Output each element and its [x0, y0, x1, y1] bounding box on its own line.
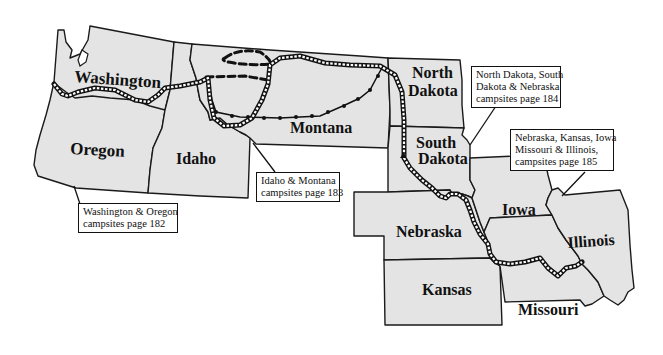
callout-line: campsites page 183 [261, 187, 335, 199]
callout-ne-ks-ia-mo-il[interactable]: Nebraska, Kansas, Iowa Missouri & Illino… [510, 129, 614, 171]
label-montana: Montana [290, 119, 352, 136]
label-south-dakota-1: South [416, 134, 456, 151]
callout-idaho-montana[interactable]: Idaho & Montana campsites page 183 [256, 172, 340, 202]
callout-line: North Dakota, South [476, 69, 556, 81]
label-illinois: Illinois [567, 231, 615, 251]
callout-nd-sd-ne[interactable]: North Dakota, South Dakota & Nebraska ca… [471, 66, 561, 108]
label-oregon: Oregon [70, 139, 126, 161]
label-nebraska: Nebraska [396, 223, 462, 240]
label-iowa: Iowa [502, 201, 536, 218]
callout-line: campsites page 185 [515, 156, 609, 168]
callout-line: Missouri & Illinois, [515, 144, 609, 156]
leader-ne-ks [562, 172, 585, 196]
callout-line: Dakota & Nebraska [476, 81, 556, 93]
leader-id-mt [253, 143, 275, 172]
callout-line: Washington & Oregon [83, 206, 173, 218]
callout-line: campsites page 184 [476, 93, 556, 105]
label-south-dakota-2: Dakota [418, 150, 468, 167]
label-north-dakota-1: North [412, 64, 453, 81]
label-kansas: Kansas [422, 281, 472, 298]
label-north-dakota-2: Dakota [408, 82, 458, 99]
callout-line: campsites page 182 [83, 218, 173, 230]
label-idaho: Idaho [176, 150, 216, 167]
leader-nd-sd-ne [470, 106, 496, 145]
callout-line: Nebraska, Kansas, Iowa [515, 132, 609, 144]
callout-washington-oregon[interactable]: Washington & Oregon campsites page 182 [78, 203, 178, 233]
label-missouri: Missouri [518, 301, 579, 318]
callout-line: Idaho & Montana [261, 175, 335, 187]
